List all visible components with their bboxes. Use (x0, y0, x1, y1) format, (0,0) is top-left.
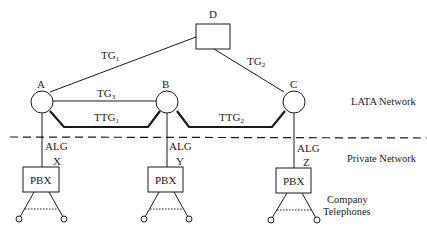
trunk-tg1 (50, 37, 196, 92)
company-telephones-label-2: Telephones (323, 207, 371, 218)
pbx-z-label: PBX (283, 176, 304, 187)
pbx-x-id: X (53, 156, 61, 167)
trunk-ttg1-label: TTG1 (94, 112, 119, 125)
trunk-ttg2-label: TTG2 (219, 112, 244, 125)
trunk-ttg2-base: TTG (219, 111, 240, 123)
trunk-tg1-base: TG (101, 49, 116, 61)
node-b-label: B (162, 79, 169, 90)
pbx-z-id: Z (303, 157, 310, 168)
telephones-x (16, 192, 67, 222)
lata-network-label: LATA Network (351, 97, 416, 108)
alg-label-a: ALG (45, 141, 68, 152)
node-c-circle (283, 91, 305, 113)
pbx-y-id: Y (176, 156, 184, 167)
alg-label-b: ALG (169, 141, 192, 152)
pbx-x-label: PBX (30, 175, 51, 186)
trunk-tg2-base: TG (247, 55, 262, 67)
trunk-ttg1-sub: 1 (115, 117, 119, 125)
trunk-tg3-base: TG (97, 87, 112, 99)
trunk-tg3-label: TG3 (97, 88, 115, 101)
telephones-z (268, 193, 320, 223)
trunk-ttg1-base: TTG (94, 111, 115, 123)
trunk-tg2-label: TG2 (247, 56, 265, 69)
node-d-label: D (209, 9, 217, 20)
trunk-tg3-sub: 3 (112, 93, 116, 101)
company-telephones-label-1: Company (327, 195, 368, 206)
node-c-label: C (290, 79, 297, 90)
private-network-label: Private Network (347, 154, 416, 165)
trunk-tg2-sub: 2 (262, 61, 266, 69)
pbx-y-label: PBX (155, 175, 176, 186)
alg-label-c: ALG (297, 143, 320, 154)
node-a-label: A (37, 79, 45, 90)
node-a-circle (31, 91, 53, 113)
trunk-tg1-label: TG1 (101, 50, 119, 63)
node-b-circle (156, 91, 178, 113)
node-d-box (196, 24, 230, 49)
trunk-tg1-sub: 1 (116, 55, 120, 63)
telephones-y (141, 192, 192, 222)
trunk-ttg2-sub: 2 (240, 117, 244, 125)
network-boundary (10, 137, 427, 138)
